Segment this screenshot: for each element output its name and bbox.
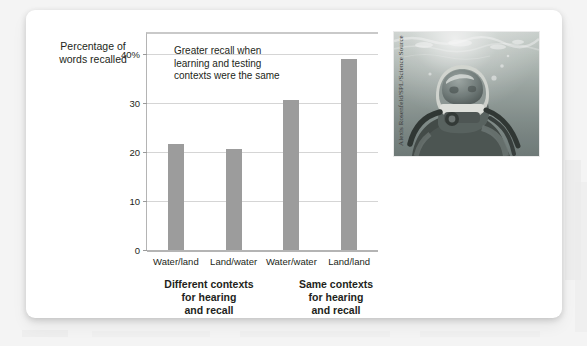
x-tick-label: Land/land xyxy=(328,256,370,267)
y-tick-label: 40% xyxy=(121,48,140,59)
bar xyxy=(283,100,299,250)
photo-credit: Alexis Rosenfeld/SPL/Science Source xyxy=(397,22,405,146)
annotation-line1: Greater recall when xyxy=(174,45,306,58)
page-artifact-right-second xyxy=(575,182,587,332)
group-caption-line2: for hearing xyxy=(281,291,391,304)
page-artifact-bottom-a xyxy=(22,330,68,337)
chart-annotation: Greater recall when learning and testing… xyxy=(174,45,306,83)
group-caption-line1: Different contexts xyxy=(149,278,269,291)
y-tick-mark xyxy=(143,201,147,202)
y-tick-label: 0 xyxy=(135,245,140,256)
y-tick-mark xyxy=(143,103,147,104)
page-artifact-bottom-b xyxy=(92,331,210,337)
y-tick-label: 30 xyxy=(129,97,140,108)
group-caption-line3: and recall xyxy=(281,304,391,317)
group-caption-line1: Same contexts xyxy=(281,278,391,291)
scuba-diver-photo xyxy=(394,32,539,156)
photo-block: Alexis Rosenfeld/SPL/Science Source xyxy=(381,32,539,156)
y-tick-label: 20 xyxy=(129,146,140,157)
x-axis-line xyxy=(147,250,378,252)
annotation-line2: learning and testing xyxy=(174,58,306,71)
page-artifact-bottom-c xyxy=(240,331,390,337)
bar xyxy=(341,59,357,250)
x-tick-label: Land/water xyxy=(210,256,257,267)
y-tick-label: 10 xyxy=(129,195,140,206)
bar xyxy=(168,144,184,250)
group-caption-line3: and recall xyxy=(149,304,269,317)
figure-card: Percentage of words recalled 010203040% … xyxy=(26,10,562,318)
plot-area: 010203040% Water/landLand/waterWater/wat… xyxy=(146,32,378,250)
page-artifact-bottom-d xyxy=(420,331,540,337)
x-tick-label: Water/water xyxy=(266,256,317,267)
x-tick-label: Water/land xyxy=(153,256,199,267)
annotation-line3: contexts were the same xyxy=(174,70,306,83)
y-tick-mark xyxy=(143,54,147,55)
group-caption-same-contexts: Same contexts for hearing and recall xyxy=(281,278,391,317)
group-caption-different-contexts: Different contexts for hearing and recal… xyxy=(149,278,269,317)
y-tick-mark xyxy=(143,152,147,153)
group-caption-line2: for hearing xyxy=(149,291,269,304)
bar xyxy=(226,149,242,250)
